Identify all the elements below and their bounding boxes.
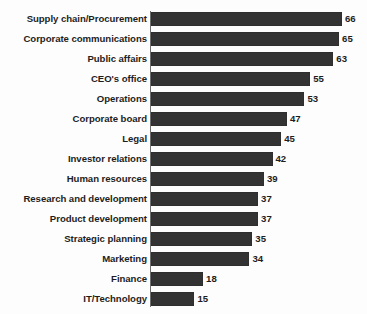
bar xyxy=(151,272,203,286)
category-label: Corporate communications xyxy=(2,31,147,46)
bar-value-label: 18 xyxy=(203,271,217,286)
category-label: Operations xyxy=(2,91,147,106)
bar-track xyxy=(151,272,203,286)
bar-row: Investor relations42 xyxy=(0,151,367,171)
bar-value-label: 65 xyxy=(339,31,353,46)
bar-row: Marketing34 xyxy=(0,251,367,271)
bar-row: Supply chain/Procurement66 xyxy=(0,11,367,31)
category-label: Supply chain/Procurement xyxy=(2,11,147,26)
category-label: IT/Technology xyxy=(2,291,147,306)
bar-track xyxy=(151,152,273,166)
bar-row: Corporate board47 xyxy=(0,111,367,131)
bar xyxy=(151,72,310,86)
category-label: Product development xyxy=(2,211,147,226)
bar-value-label: 39 xyxy=(264,171,278,186)
bar-track xyxy=(151,92,304,106)
category-label: Investor relations xyxy=(2,151,147,166)
category-label: Public affairs xyxy=(2,51,147,66)
bar xyxy=(151,132,281,146)
bar-value-label: 37 xyxy=(258,211,272,226)
bar-track xyxy=(151,292,194,306)
bar xyxy=(151,172,264,186)
bar xyxy=(151,192,258,206)
category-label: CEO's office xyxy=(2,71,147,86)
bar-value-label: 55 xyxy=(310,71,324,86)
bar-value-label: 15 xyxy=(194,291,208,306)
bar xyxy=(151,12,342,26)
bar xyxy=(151,212,258,226)
category-label: Marketing xyxy=(2,251,147,266)
bar xyxy=(151,292,194,306)
bar-value-label: 45 xyxy=(281,131,295,146)
bar-row: Research and development37 xyxy=(0,191,367,211)
bar-row: Strategic planning35 xyxy=(0,231,367,251)
bar-value-label: 63 xyxy=(333,51,347,66)
category-label: Research and development xyxy=(2,191,147,206)
bar xyxy=(151,112,287,126)
bar-row: Human resources39 xyxy=(0,171,367,191)
bar-track xyxy=(151,212,258,226)
bar-rows-container: Supply chain/Procurement66Corporate comm… xyxy=(0,11,367,311)
bar-row: Operations53 xyxy=(0,91,367,111)
bar xyxy=(151,252,249,266)
category-label: Corporate board xyxy=(2,111,147,126)
category-label: Legal xyxy=(2,131,147,146)
category-label: Human resources xyxy=(2,171,147,186)
bar-track xyxy=(151,132,281,146)
bar-value-label: 47 xyxy=(287,111,301,126)
bar-value-label: 66 xyxy=(342,11,356,26)
bar-track xyxy=(151,32,339,46)
bar-value-label: 34 xyxy=(249,251,263,266)
bar-track xyxy=(151,12,342,26)
bar xyxy=(151,152,273,166)
category-label: Strategic planning xyxy=(2,231,147,246)
bar-row: Product development37 xyxy=(0,211,367,231)
category-label: Finance xyxy=(2,271,147,286)
bar xyxy=(151,92,304,106)
bar-row: Public affairs63 xyxy=(0,51,367,71)
bar-track xyxy=(151,72,310,86)
bar xyxy=(151,32,339,46)
bar-track xyxy=(151,172,264,186)
bar-value-label: 35 xyxy=(252,231,266,246)
bar-value-label: 37 xyxy=(258,191,272,206)
bar-row: CEO's office55 xyxy=(0,71,367,91)
bar-track xyxy=(151,232,252,246)
bar-track xyxy=(151,252,249,266)
bar-row: Corporate communications65 xyxy=(0,31,367,51)
bar-track xyxy=(151,192,258,206)
bar xyxy=(151,52,333,66)
bar-row: IT/Technology15 xyxy=(0,291,367,311)
bar xyxy=(151,232,252,246)
bar-chart: Supply chain/Procurement66Corporate comm… xyxy=(0,0,367,314)
bar-track xyxy=(151,112,287,126)
bar-value-label: 53 xyxy=(304,91,318,106)
bar-row: Finance18 xyxy=(0,271,367,291)
bar-track xyxy=(151,52,333,66)
bar-value-label: 42 xyxy=(273,151,287,166)
bar-row: Legal45 xyxy=(0,131,367,151)
